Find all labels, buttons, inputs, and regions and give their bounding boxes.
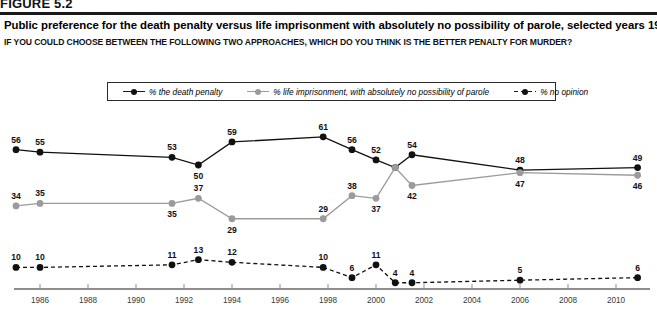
x-axis-tick-label: 1996	[271, 296, 290, 305]
data-point	[13, 146, 20, 153]
data-point	[37, 149, 44, 156]
data-point	[373, 156, 380, 163]
data-point	[409, 182, 416, 189]
series-line-0	[16, 137, 638, 170]
data-point	[37, 264, 44, 271]
data-point-label: 56	[11, 135, 21, 145]
data-point	[373, 195, 380, 202]
data-point	[517, 169, 524, 176]
legend-item-no-opinion: % no opinion	[514, 87, 588, 97]
x-axis-tick-label: 2008	[559, 296, 578, 305]
data-point	[37, 200, 44, 207]
data-point	[229, 259, 236, 266]
data-point-label: 56	[347, 135, 357, 145]
data-point-label: 47	[515, 179, 525, 189]
figure-divider-rule	[0, 12, 657, 15]
data-point	[169, 200, 176, 207]
data-point-label: 55	[35, 137, 45, 147]
x-axis-tick-label: 2006	[511, 296, 530, 305]
data-point	[373, 261, 380, 268]
chart-subtitle: IF YOU COULD CHOOSE BETWEEN THE FOLLOWIN…	[4, 37, 654, 47]
x-axis-tick-label: 2010	[607, 296, 626, 305]
data-point	[13, 264, 20, 271]
data-point	[349, 192, 356, 199]
data-point	[195, 195, 202, 202]
x-axis-tick-label: 2002	[415, 296, 434, 305]
data-point	[517, 277, 524, 284]
data-point-label: 35	[167, 209, 177, 219]
data-point	[320, 133, 327, 140]
data-point-label: 10	[35, 252, 45, 262]
line-chart-svg: 1986198819901992199419961998200020022004…	[0, 104, 657, 314]
data-point	[320, 215, 327, 222]
data-point	[409, 151, 416, 158]
data-point-label: 29	[227, 225, 237, 235]
data-point-label: 48	[515, 155, 525, 165]
data-point	[229, 215, 236, 222]
data-point	[229, 139, 236, 146]
data-point-label: 11	[371, 250, 380, 260]
data-point-label: 37	[194, 183, 204, 193]
x-axis-tick-label: 2004	[463, 296, 482, 305]
legend-marker-life-imprisonment-icon	[247, 87, 269, 96]
chart-legend: % the death penalty % life imprisonment,…	[107, 82, 556, 101]
data-point	[634, 274, 641, 281]
data-point-label: 38	[347, 181, 357, 191]
series-line-2	[16, 260, 638, 283]
data-point	[349, 146, 356, 153]
data-point-label: 54	[407, 140, 417, 150]
data-point-label: 10	[318, 252, 328, 262]
x-axis-tick-label: 1986	[31, 296, 50, 305]
data-point-label: 13	[194, 245, 204, 255]
data-point-label: 12	[227, 247, 237, 257]
data-point	[634, 164, 641, 171]
chart-plot-area: 1986198819901992199419961998200020022004…	[0, 104, 657, 314]
legend-item-life-imprisonment: % life imprisonment, with absolutely no …	[247, 87, 489, 97]
data-point	[169, 154, 176, 161]
data-point-label: 29	[318, 204, 328, 214]
data-point-label: 46	[633, 181, 643, 191]
data-point-label: 35	[35, 188, 45, 198]
x-axis-tick-label: 1998	[319, 296, 338, 305]
data-point	[169, 261, 176, 268]
data-point	[320, 264, 327, 271]
data-point-label: 5	[518, 265, 523, 275]
x-axis-tick-label: 1994	[223, 296, 242, 305]
chart-title: Public preference for the death penalty …	[4, 19, 654, 32]
data-point	[409, 279, 416, 286]
data-point	[13, 203, 20, 210]
legend-marker-no-opinion-icon	[514, 87, 536, 96]
legend-item-death-penalty: % the death penalty	[123, 87, 222, 97]
data-point-label: 6	[350, 263, 355, 273]
data-point	[634, 172, 641, 179]
legend-marker-death-penalty-icon	[123, 87, 145, 96]
data-point	[195, 256, 202, 263]
data-point-label: 10	[11, 252, 21, 262]
data-point-label: 11	[167, 250, 176, 260]
data-point-label: 42	[407, 191, 417, 201]
figure-number: FIGURE 5.2	[0, 0, 73, 11]
data-point-label: 37	[371, 204, 381, 214]
data-point	[195, 162, 202, 169]
x-axis-tick-label: 1992	[175, 296, 194, 305]
x-axis-tick-label: 1988	[79, 296, 98, 305]
data-point-label: 4	[393, 268, 398, 278]
data-point-label: 50	[194, 171, 204, 181]
legend-label-death-penalty: % the death penalty	[149, 87, 222, 97]
data-point	[392, 164, 399, 171]
data-point-label: 4	[410, 268, 415, 278]
data-point-label: 53	[167, 142, 177, 152]
data-point-label: 49	[633, 153, 643, 163]
x-axis-tick-label: 1990	[127, 296, 146, 305]
data-point-label: 34	[11, 191, 21, 201]
x-axis-tick-label: 2000	[367, 296, 386, 305]
data-point-label: 52	[371, 145, 381, 155]
data-point-label: 59	[227, 127, 237, 137]
data-point	[349, 274, 356, 281]
data-point	[392, 279, 399, 286]
legend-label-no-opinion: % no opinion	[540, 87, 588, 97]
data-point-label: 61	[318, 122, 328, 132]
data-point-label: 6	[635, 263, 640, 273]
legend-label-life-imprisonment: % life imprisonment, with absolutely no …	[273, 87, 489, 97]
